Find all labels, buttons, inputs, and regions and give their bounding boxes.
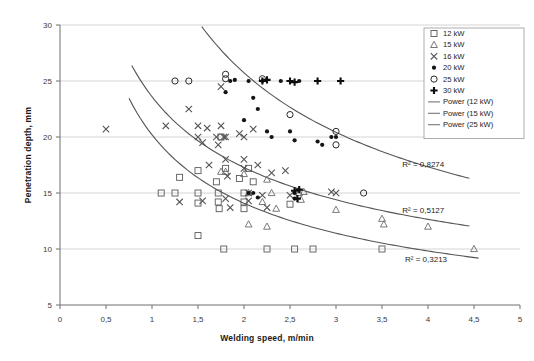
- data-point: [247, 79, 251, 83]
- legend-label: Power (25 kW): [443, 120, 494, 129]
- data-point: [245, 198, 251, 204]
- data-point: [242, 118, 246, 122]
- x-tick-label: 0: [58, 315, 63, 324]
- x-tick-label: 4,5: [468, 315, 480, 324]
- data-point: [268, 170, 274, 176]
- data-point: [259, 77, 266, 84]
- x-tick-label: 5: [518, 315, 523, 324]
- data-point: [224, 90, 228, 94]
- legend-label: 20 kW: [443, 63, 465, 72]
- data-point: [215, 142, 221, 148]
- legend-label: 30 kW: [443, 86, 465, 95]
- legend-label: Power (15 kW): [443, 109, 494, 118]
- data-point: [213, 179, 219, 185]
- data-point: [251, 96, 255, 100]
- data-point: [286, 77, 293, 84]
- data-point: [337, 77, 344, 84]
- x-tick-label: 2: [242, 315, 247, 324]
- data-point: [270, 135, 274, 139]
- data-point: [334, 135, 338, 139]
- data-point: [328, 189, 334, 195]
- legend-label: 16 kW: [443, 52, 465, 61]
- data-point: [176, 199, 182, 205]
- data-point: [216, 206, 222, 212]
- legend-label: Power (12 kW): [443, 97, 494, 106]
- data-point: [251, 191, 255, 195]
- y-tick-label: 5: [48, 301, 53, 310]
- x-tick-label: 3: [334, 315, 339, 324]
- y-tick-label: 10: [43, 245, 52, 254]
- x-tick-label: 0,5: [100, 315, 112, 324]
- data-point: [199, 198, 205, 204]
- data-point: [206, 162, 212, 168]
- data-point: [314, 77, 321, 84]
- data-point: [250, 179, 256, 185]
- data-point: [279, 79, 283, 83]
- data-point: [247, 191, 251, 195]
- r2-annotation: R² = 0,8274: [402, 160, 445, 169]
- data-point: [320, 143, 324, 147]
- data-point: [204, 125, 210, 131]
- data-point: [195, 233, 201, 239]
- data-point: [177, 174, 183, 180]
- series-25-kw: [172, 71, 367, 196]
- data-point: [215, 199, 221, 205]
- data-point: [263, 76, 270, 83]
- data-point: [333, 206, 340, 212]
- y-tick-label: 25: [43, 77, 52, 86]
- data-point: [236, 130, 242, 136]
- x-tick-label: 1: [150, 315, 155, 324]
- data-point: [264, 204, 270, 210]
- data-point: [268, 189, 275, 195]
- data-point: [273, 205, 280, 211]
- data-point: [222, 195, 228, 201]
- data-point: [294, 195, 301, 202]
- data-point: [282, 167, 288, 173]
- data-point: [259, 198, 266, 204]
- data-point: [425, 223, 432, 229]
- data-point: [265, 129, 269, 133]
- y-tick-label: 20: [43, 133, 52, 142]
- data-point: [287, 112, 293, 118]
- data-point: [471, 245, 478, 251]
- data-point: [227, 204, 233, 210]
- data-point: [287, 201, 293, 207]
- data-point: [186, 106, 192, 112]
- data-point: [218, 123, 224, 129]
- x-tick-label: 1,5: [192, 315, 204, 324]
- legend-marker: [432, 66, 436, 70]
- data-point: [379, 215, 386, 221]
- legend-label: 25 kW: [443, 75, 465, 84]
- data-point: [264, 223, 271, 229]
- data-point: [245, 221, 252, 227]
- data-point: [291, 79, 298, 86]
- y-tick-label: 30: [43, 21, 52, 30]
- data-point: [329, 135, 333, 139]
- x-tick-label: 2,5: [284, 315, 296, 324]
- data-point: [195, 123, 201, 129]
- data-point: [103, 126, 109, 132]
- data-point: [250, 126, 256, 132]
- data-point: [218, 83, 224, 89]
- data-point: [316, 139, 320, 143]
- r2-annotation: R² = 0,3213: [405, 255, 448, 264]
- scatter-plot: 5101520253000,511,522,533,544,55R² = 0,8…: [0, 0, 534, 361]
- data-point: [333, 142, 339, 148]
- data-point: [163, 123, 169, 129]
- legend-label: 12 kW: [443, 29, 465, 38]
- data-point: [195, 168, 201, 174]
- data-point: [288, 129, 292, 133]
- data-point: [241, 206, 247, 212]
- data-point: [233, 78, 237, 82]
- chart-figure: Penetration depth, mm Welding speed, m/m…: [0, 0, 534, 361]
- data-point: [255, 162, 261, 168]
- data-point: [256, 195, 260, 199]
- data-point: [293, 138, 297, 142]
- data-point: [256, 107, 260, 111]
- data-point: [223, 71, 229, 77]
- data-point: [241, 156, 247, 162]
- legend-label: 15 kW: [443, 40, 465, 49]
- x-tick-label: 3,5: [376, 315, 388, 324]
- y-tick-label: 15: [43, 189, 52, 198]
- x-tick-label: 4: [426, 315, 431, 324]
